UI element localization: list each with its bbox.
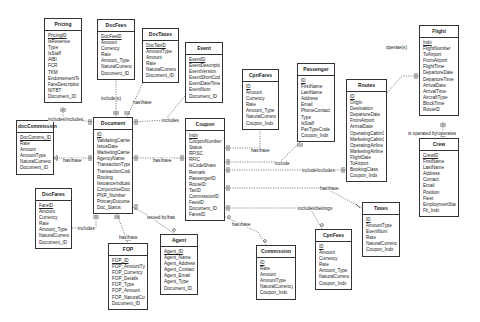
entity-field-list: IndxCouponNumberStatusRFISCRFICIsCodeSha… <box>186 131 224 220</box>
entity-field-list: IDAmountCurrencyRateAmount_TypeNaturalCu… <box>316 242 351 289</box>
entity-title: Agent <box>161 235 197 247</box>
entity-title: Routes <box>347 80 386 92</box>
entity-field: DepartureTime <box>423 77 456 83</box>
entity-field: MarketingCabinC <box>350 137 384 143</box>
entity-title: Event <box>186 43 222 55</box>
entity-commission[interactable]: CommissionIDRateAmountAmountTypeNaturalC… <box>256 245 296 300</box>
relationship-label: includes <box>78 226 95 231</box>
entity-field: Document_ID <box>39 240 69 246</box>
entity-field-list: IDAmountTypeEventNumRateNaturalCurrencyC… <box>363 215 399 256</box>
relationship-label: includes\belongs <box>298 206 332 211</box>
entity-title: DocFees <box>98 20 134 32</box>
entity-title: Crew <box>420 139 458 151</box>
entity-field-list: IDAmountCurrencyRateAmount_TypeNaturalCu… <box>243 82 278 129</box>
entity-doccommission[interactable]: docCommissionDocComms_IDRateAmountAmount… <box>16 120 54 175</box>
relationship-label: has\have <box>232 222 251 227</box>
entity-field: FareDescription <box>48 82 79 88</box>
entity-title: Commission <box>257 246 295 258</box>
relationship-label: operate(s) <box>386 45 407 50</box>
relationship-label: include(s) <box>101 96 121 101</box>
entity-title: docCommission <box>17 121 53 133</box>
entity-cpnfees[interactable]: CpnFeesIDAmountCurrencyRateAmount_TypeNa… <box>315 229 352 290</box>
entity-fop[interactable]: FOPFOP_IDFOP_AmountTypFOP_CurrencyFOP_De… <box>108 243 148 310</box>
entity-field: NaturalCurrency <box>101 64 132 70</box>
relationship-label: has\have <box>133 100 152 105</box>
entity-title: Passenger <box>298 64 334 76</box>
entity-field: Document_ID <box>189 94 220 100</box>
entity-field-list: DocFeeIDAmountCurrencyRateAmount_TypeNat… <box>98 32 134 79</box>
entity-field: IssuanceIndicator <box>97 181 130 187</box>
entity-field-list: IDOriginDestinationDepartureDateFromAirp… <box>347 92 386 181</box>
entity-field-list: IDRateAmountAmountTypeNaturalCurrencyCou… <box>257 258 295 299</box>
entity-field: PaxTypeCode <box>301 127 332 133</box>
entity-field: Document_ID <box>146 73 176 79</box>
entity-field: EndorsementTex <box>48 76 79 82</box>
entity-field: TransactionCode <box>97 169 130 175</box>
entity-docfares[interactable]: DocFaresFareIDAmountCurrencyRateAmount_T… <box>35 188 72 249</box>
entity-event[interactable]: EventEventIDEventDescriptionEventVersion… <box>185 42 223 103</box>
entity-docfees[interactable]: DocFeesDocFeeIDAmountCurrencyRateAmount_… <box>97 19 135 80</box>
entity-field-list: IDFirstNameLastNameAddressEmailPhoneCont… <box>298 76 334 141</box>
entity-pricing[interactable]: PricingPricingIDIsRevenueTypeIsStaffAIBI… <box>44 18 82 103</box>
entity-title: Flight <box>420 26 458 38</box>
entity-field-list: PricingIDIsRevenueTypeIsStaffAIBIFCRTKME… <box>45 31 81 102</box>
entity-field-list: Agent_IDAgent_NameAgent_AddressAgent_Con… <box>161 247 197 294</box>
entity-field: Coupon_Indx <box>350 173 384 179</box>
entity-title: DocTaxes <box>143 29 178 41</box>
entity-field: RouteID <box>423 107 456 113</box>
entity-document[interactable]: DocumentIDValidatingCarrierIssueDateMark… <box>93 117 133 214</box>
entity-title: Taxes <box>363 203 399 215</box>
entity-flight[interactable]: FlightIndxFlightNumberToAirportFromAirpo… <box>419 25 459 116</box>
entity-field: Coupon_Indx <box>301 133 332 139</box>
entity-field-list: FOP_IDFOP_AmountTypFOP_CurrencyFOP_Detai… <box>109 256 147 309</box>
entity-field: OperatingAirline <box>350 143 384 149</box>
relationship-label: has\have <box>153 158 172 163</box>
entity-field: Flt_Indx <box>423 208 456 214</box>
entity-routes[interactable]: RoutesIDOriginDestinationDepartureDateFr… <box>346 79 387 182</box>
relationship-label: includes <box>162 118 179 123</box>
relationship-label: has\have <box>63 158 82 163</box>
entity-field: FOP_NaturalCurr <box>112 295 145 301</box>
entity-crew[interactable]: CrewCrewIDFirstNameLastNameAddressContac… <box>419 138 459 217</box>
entity-title: DocFares <box>36 189 71 201</box>
entity-field: Document_ID <box>48 94 79 100</box>
entity-field: Coupon_Indx <box>319 281 349 287</box>
entity-field: TransactionType <box>97 162 130 168</box>
entity-field: NaturalCurrency <box>39 233 69 239</box>
entity-title: Pricing <box>45 19 81 31</box>
er-diagram-canvas: PricingPricingIDIsRevenueTypeIsStaffAIBI… <box>0 0 480 322</box>
entity-taxes[interactable]: TaxesIDAmountTypeEventNumRateNaturalCurr… <box>362 202 400 257</box>
relationship-label: has\have <box>119 235 138 240</box>
entity-field: Coupon_Indx <box>366 247 397 253</box>
entity-field-list: DocTaxIDAmountTypeAmountRateNaturalCurre… <box>143 41 178 82</box>
entity-field: DepartureDate <box>423 70 456 76</box>
relationship-label: include <box>275 161 290 166</box>
relationship-label: includes\includes <box>48 117 83 122</box>
entity-title: FOP <box>109 244 147 256</box>
entity-cpnfares[interactable]: CpnFaresIDAmountCurrencyRateAmount_TypeN… <box>242 69 279 130</box>
entity-field-list: IDValidatingCarrierIssueDateMarketingCar… <box>94 130 132 213</box>
entity-agent[interactable]: AgentAgent_IDAgent_NameAgent_AddressAgen… <box>160 234 198 295</box>
entity-field-list: IndxFlightNumberToAirportFromAirportFlig… <box>420 38 458 115</box>
entity-title: CpnFares <box>243 70 278 82</box>
entity-passenger[interactable]: PassengerIDFirstNameLastNameAddressEmail… <box>297 63 335 142</box>
entity-field-list: DocComms_IDRateAmountAmountTypeNaturalCu… <box>17 133 53 174</box>
entity-field: PhoneContact <box>301 108 332 114</box>
entity-field: EmploymentStart <box>423 202 456 208</box>
entity-field: NaturalCurrency <box>319 274 349 280</box>
entity-doctaxes[interactable]: DocTaxesDocTaxIDAmountTypeAmountRateNatu… <box>142 28 179 83</box>
entity-field-list: CrewIDFirstNameLastNameAddressContactEma… <box>420 151 458 216</box>
relationship-label: include\includes <box>302 168 335 173</box>
entity-coupon[interactable]: CouponIndxCouponNumberStatusRFISCRFICIsC… <box>185 118 225 221</box>
entity-title: Document <box>94 118 132 130</box>
relationship-label: has\have <box>320 186 339 191</box>
entity-field: Coupon_Indx <box>260 290 293 296</box>
entity-field-list: EventIDEventDescriptionEventVersionEvent… <box>186 55 222 102</box>
relationship-label: is operated by\operates <box>408 131 456 136</box>
entity-title: CpnFees <box>316 230 351 242</box>
entity-field: OperatingCabinC <box>350 131 384 137</box>
relationship-label: has\have <box>251 148 270 153</box>
entity-field: FaresID <box>189 212 222 218</box>
entity-field: NaturalCurrency <box>246 114 276 120</box>
relationship-label: issued by\has <box>147 215 175 220</box>
